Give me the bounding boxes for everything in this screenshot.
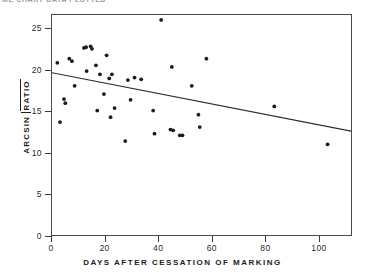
data-point <box>94 63 98 67</box>
y-axis-tick <box>45 70 51 71</box>
data-point <box>85 69 89 73</box>
data-point <box>98 72 102 76</box>
x-axis-tick <box>319 236 320 242</box>
x-axis-tick <box>158 236 159 242</box>
data-point <box>272 105 276 109</box>
data-point <box>181 133 185 137</box>
data-point <box>190 84 194 88</box>
y-axis-label-wrapper: ARCSINRATIO <box>15 47 33 187</box>
data-point <box>109 115 113 119</box>
y-axis-tick <box>45 194 51 195</box>
radical-sign-icon: RATIO <box>21 80 31 113</box>
data-point <box>170 65 174 69</box>
data-point <box>113 106 117 110</box>
data-point <box>95 109 99 113</box>
data-point <box>153 132 157 136</box>
data-point <box>63 101 67 105</box>
data-point <box>55 61 59 65</box>
data-point <box>139 77 143 81</box>
data-point <box>171 128 175 132</box>
x-axis-tick-label: 0 <box>36 243 66 253</box>
data-point <box>126 78 130 82</box>
data-point <box>62 97 66 101</box>
y-axis-tick-label: 5 <box>2 189 42 199</box>
x-axis-tick-label: 100 <box>304 243 334 253</box>
data-point <box>123 139 127 143</box>
x-axis-tick <box>212 236 213 242</box>
data-points <box>55 18 329 146</box>
data-point <box>129 98 133 102</box>
y-axis-label-radicand: RATIO <box>22 80 31 110</box>
data-point <box>90 47 94 51</box>
y-axis-tick <box>45 28 51 29</box>
data-point <box>105 53 109 57</box>
data-point <box>197 113 201 117</box>
data-point <box>198 125 202 129</box>
x-axis-label: DAYS AFTER CESSATION OF MARKING <box>0 258 365 267</box>
data-point <box>107 77 111 81</box>
data-point <box>102 92 106 96</box>
data-point <box>159 18 163 22</box>
data-point <box>326 142 330 146</box>
data-point <box>205 57 209 61</box>
cropped-header-text: ME CHART DATA PLOTTED <box>2 0 106 4</box>
data-point <box>58 120 62 124</box>
scatter-plot-figure: ME CHART DATA PLOTTED 0510152025 0204060… <box>0 0 365 277</box>
data-point <box>151 109 155 113</box>
y-axis-tick-label: 25 <box>2 23 42 33</box>
x-axis-tick-label: 80 <box>250 243 280 253</box>
x-axis-tick <box>265 236 266 242</box>
data-point <box>84 45 88 49</box>
y-axis-tick-label: 0 <box>2 231 42 241</box>
data-point <box>110 72 114 76</box>
x-axis-tick-label: 40 <box>143 243 173 253</box>
x-axis-tick <box>51 236 52 242</box>
x-axis-tick-label: 60 <box>197 243 227 253</box>
y-axis-label: ARCSINRATIO <box>21 80 31 154</box>
data-point <box>70 59 74 63</box>
trendline <box>52 73 351 132</box>
radical-stroke-icon <box>21 112 31 113</box>
radical-overbar-icon <box>20 79 21 110</box>
y-axis-label-prefix: ARCSIN <box>22 116 31 154</box>
x-axis-tick-label: 20 <box>90 243 120 253</box>
data-point <box>133 76 137 80</box>
data-point <box>73 84 77 88</box>
x-axis-tick <box>105 236 106 242</box>
y-axis-tick <box>45 153 51 154</box>
plot-area <box>52 15 351 235</box>
y-axis-tick <box>45 111 51 112</box>
trendline-segment <box>52 73 351 132</box>
plot-frame <box>51 14 352 236</box>
